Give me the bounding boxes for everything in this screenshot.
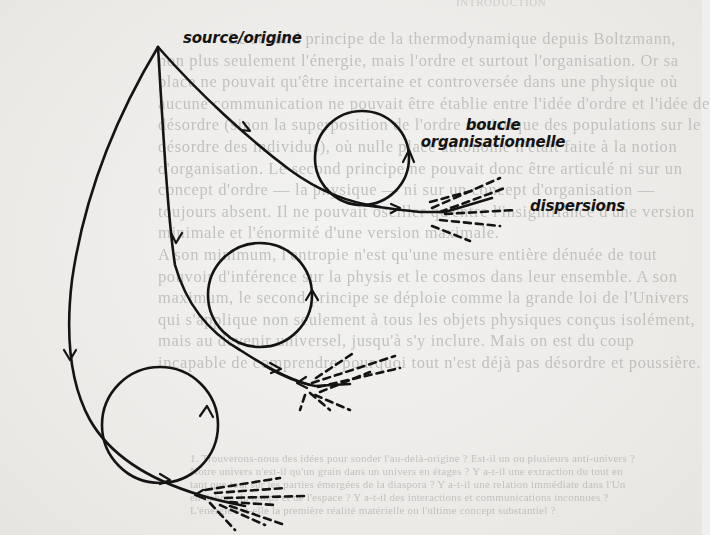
source-origin-label: source/origine — [183, 30, 302, 47]
dispersions-label: dispersions — [530, 198, 625, 215]
upper-organisational-loop — [315, 111, 409, 205]
edge-source-to-lower-loop — [69, 47, 245, 506]
organisational-loop-label: boucle organisationnelle — [418, 117, 568, 151]
arrow-icon — [241, 122, 250, 131]
dispersion-fan-upper — [430, 178, 515, 241]
loop-label-line-2: organisationnelle — [418, 134, 568, 151]
edge-source-to-upper-loop — [158, 47, 380, 207]
edge-source-to-middle-loop — [158, 47, 310, 385]
middle-organisational-loop — [208, 243, 312, 347]
dispersion-fan-middle — [300, 352, 400, 410]
arrow-icon — [200, 406, 213, 417]
dispersion-fan-lower — [205, 478, 305, 530]
loop-label-line-1: boucle — [418, 117, 568, 134]
lower-organisational-loop — [102, 367, 218, 483]
